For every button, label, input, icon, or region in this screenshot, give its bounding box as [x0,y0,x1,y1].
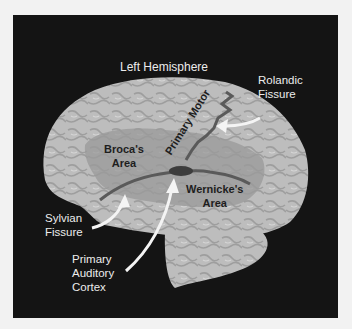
brain-illustration [0,0,352,329]
broca-area-label: Broca's Area [104,142,144,170]
primary-auditory-cortex-label: Primary Auditory Cortex [72,252,114,294]
cerebellum [165,232,268,288]
primary-auditory-cortex [169,166,193,176]
diagram-title: Left Hemisphere [120,60,208,74]
rolandic-fissure-label: Rolandic Fissure [258,73,303,101]
wernicke-area-label: Wernicke's Area [186,182,243,210]
sylvian-fissure-label: Sylvian Fissure [45,211,83,239]
